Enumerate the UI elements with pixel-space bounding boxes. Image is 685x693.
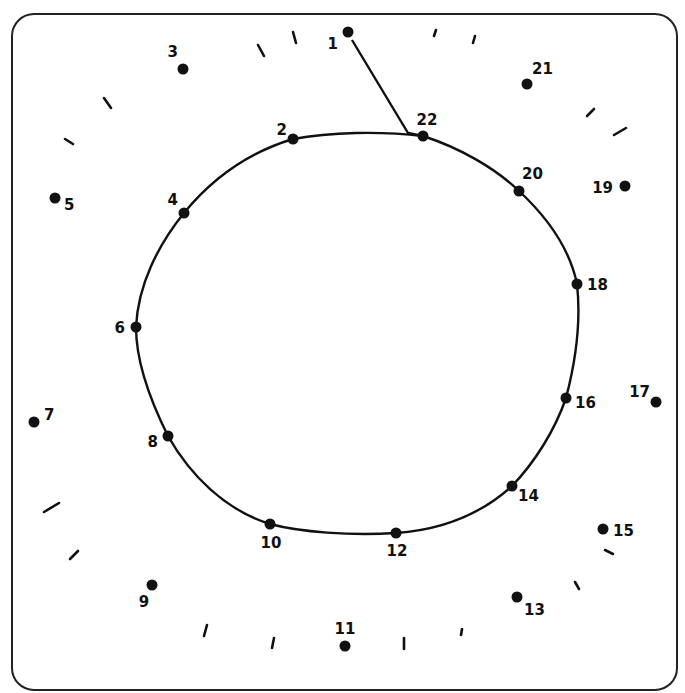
dot-marker — [514, 186, 525, 197]
dot-9: 9 — [139, 580, 158, 612]
guide-tick-mark — [70, 551, 78, 559]
guide-tick-marks — [44, 30, 626, 649]
dot-number-label: 11 — [335, 620, 356, 638]
dot-13: 13 — [512, 592, 545, 620]
dot-19: 19 — [592, 179, 630, 197]
dot-4: 4 — [168, 191, 190, 219]
dot-14: 14 — [507, 481, 539, 506]
guide-tick-mark — [614, 128, 626, 135]
apple-stem-line — [352, 40, 423, 136]
dot-17: 17 — [629, 383, 661, 408]
dot-marker — [179, 208, 190, 219]
dot-1: 1 — [328, 27, 354, 54]
dot-marker — [163, 431, 174, 442]
dot-number-label: 9 — [139, 593, 149, 611]
dot-number-label: 5 — [64, 196, 74, 214]
dot-marker — [598, 524, 609, 535]
dot-21: 21 — [522, 60, 553, 90]
guide-tick-mark — [65, 139, 73, 144]
numbered-dots: 12345678910111213141516171819202122 — [29, 27, 662, 652]
dot-number-label: 20 — [522, 165, 543, 183]
dot-16: 16 — [561, 393, 596, 413]
guide-tick-mark — [575, 582, 579, 589]
dot-number-label: 8 — [148, 433, 158, 451]
dot-marker — [651, 397, 662, 408]
dot-marker — [288, 134, 299, 145]
dot-marker — [340, 641, 351, 652]
dot-6: 6 — [115, 319, 142, 337]
dot-number-label: 6 — [115, 319, 125, 337]
dot-marker — [50, 193, 61, 204]
dot-15: 15 — [598, 522, 634, 540]
dot-marker — [522, 79, 533, 90]
dot-marker — [512, 592, 523, 603]
dot-20: 20 — [514, 165, 543, 197]
worksheet-frame — [12, 14, 677, 690]
dot-marker — [507, 481, 518, 492]
dot-7: 7 — [29, 406, 55, 428]
connect-the-dots-worksheet: 12345678910111213141516171819202122 — [0, 0, 685, 693]
guide-tick-mark — [587, 109, 594, 116]
dot-marker — [29, 417, 40, 428]
guide-tick-mark — [293, 32, 296, 43]
dot-8: 8 — [148, 431, 174, 452]
guide-tick-mark — [272, 638, 274, 648]
dot-marker — [620, 181, 631, 192]
dot-marker — [343, 27, 354, 38]
dot-marker — [572, 279, 583, 290]
dot-marker — [178, 64, 189, 75]
guide-tick-mark — [44, 503, 59, 512]
dot-10: 10 — [261, 519, 282, 553]
dot-marker — [391, 528, 402, 539]
dot-marker — [561, 393, 572, 404]
dot-number-label: 12 — [387, 542, 408, 560]
guide-tick-mark — [434, 30, 436, 36]
dot-number-label: 1 — [328, 35, 338, 53]
dot-marker — [265, 519, 276, 530]
dot-number-label: 7 — [44, 406, 54, 424]
dot-number-label: 13 — [524, 601, 545, 619]
apple-outline-path — [136, 133, 578, 534]
dot-number-label: 3 — [168, 43, 178, 61]
dot-number-label: 4 — [168, 191, 178, 209]
dot-22: 22 — [417, 111, 438, 142]
guide-tick-mark — [461, 629, 462, 635]
dot-number-label: 19 — [592, 179, 613, 197]
dot-number-label: 15 — [613, 522, 634, 540]
dot-marker — [131, 322, 142, 333]
guide-tick-mark — [605, 550, 613, 554]
dot-number-label: 17 — [629, 383, 650, 401]
dot-number-label: 22 — [417, 111, 438, 129]
dot-number-label: 10 — [261, 534, 282, 552]
dot-number-label: 14 — [518, 487, 539, 505]
dot-number-label: 2 — [277, 121, 287, 139]
guide-tick-mark — [473, 36, 475, 43]
dot-marker — [147, 580, 158, 591]
guide-tick-mark — [104, 98, 111, 108]
dot-5: 5 — [50, 193, 75, 215]
dot-number-label: 21 — [532, 60, 553, 78]
guide-tick-mark — [204, 625, 207, 636]
dot-number-label: 16 — [575, 394, 596, 412]
dot-11: 11 — [335, 620, 356, 652]
guide-tick-mark — [258, 45, 264, 56]
dot-3: 3 — [168, 43, 189, 75]
dot-marker — [418, 131, 429, 142]
dot-number-label: 18 — [587, 276, 608, 294]
